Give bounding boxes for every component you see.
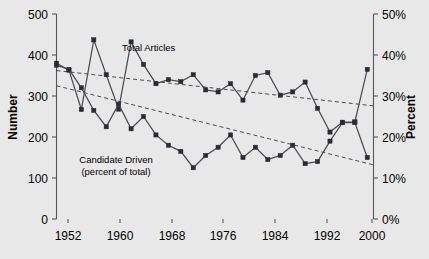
data-point bbox=[54, 63, 58, 67]
x-tick-label-1976: 1976 bbox=[210, 229, 237, 243]
y-tick-label-300: 300 bbox=[28, 90, 48, 104]
data-point bbox=[241, 98, 245, 102]
x-tick-label-1952: 1952 bbox=[55, 229, 82, 243]
x-tick-label-1992: 1992 bbox=[314, 229, 341, 243]
data-point bbox=[315, 106, 319, 110]
data-point bbox=[291, 143, 295, 147]
data-point bbox=[353, 121, 357, 125]
data-point bbox=[166, 143, 170, 147]
dual-axis-line-chart: 500 400 300 200 100 0 50% 40% 30% 20% 10… bbox=[0, 0, 429, 259]
data-point bbox=[253, 73, 257, 77]
series-annotation-candidate-driven-line2: (percent of total) bbox=[81, 166, 150, 177]
y2-tick-label-40: 40% bbox=[382, 49, 406, 63]
x-tick-label-1960: 1960 bbox=[107, 229, 134, 243]
data-point bbox=[303, 80, 307, 84]
y2-axis-title: Percent bbox=[404, 95, 418, 139]
data-point bbox=[154, 133, 158, 137]
data-point bbox=[92, 108, 96, 112]
data-point bbox=[179, 80, 183, 84]
data-point bbox=[241, 155, 245, 159]
x-tick-label-2000: 2000 bbox=[359, 229, 386, 243]
data-point bbox=[340, 121, 344, 125]
y-tick-label-500: 500 bbox=[28, 8, 48, 22]
data-point bbox=[92, 38, 96, 42]
data-point bbox=[328, 130, 332, 134]
x-tick-label-1984: 1984 bbox=[262, 229, 289, 243]
data-point bbox=[204, 88, 208, 92]
y2-tick-label-0: 0% bbox=[382, 213, 400, 227]
data-point bbox=[228, 133, 232, 137]
data-point bbox=[141, 62, 145, 66]
data-point bbox=[104, 125, 108, 129]
data-point bbox=[253, 145, 257, 149]
series-annotation-candidate-driven-line1: Candidate Driven bbox=[79, 154, 152, 165]
data-point bbox=[228, 82, 232, 86]
x-tick-label-1968: 1968 bbox=[159, 229, 186, 243]
y2-tick-label-10: 10% bbox=[382, 172, 406, 186]
data-point bbox=[315, 160, 319, 164]
data-point bbox=[154, 82, 158, 86]
y2-tick-label-50: 50% bbox=[382, 8, 406, 22]
data-point bbox=[216, 145, 220, 149]
y-tick-label-0: 0 bbox=[41, 213, 48, 227]
data-point bbox=[129, 127, 133, 131]
y-tick-label-400: 400 bbox=[28, 49, 48, 63]
y-tick-label-100: 100 bbox=[28, 172, 48, 186]
data-point bbox=[291, 90, 295, 94]
y2-tick-label-30: 30% bbox=[382, 90, 406, 104]
series-annotation-total-articles: Total Articles bbox=[122, 42, 176, 53]
chart-background bbox=[0, 0, 429, 259]
data-point bbox=[179, 149, 183, 153]
data-point bbox=[117, 102, 121, 106]
data-point bbox=[278, 93, 282, 97]
data-point bbox=[303, 162, 307, 166]
data-point bbox=[365, 67, 369, 71]
data-point bbox=[266, 157, 270, 161]
data-point bbox=[204, 153, 208, 157]
data-point bbox=[166, 78, 170, 82]
data-point bbox=[79, 107, 83, 111]
data-point bbox=[365, 155, 369, 159]
data-point bbox=[328, 139, 332, 143]
data-point bbox=[104, 73, 108, 77]
data-point bbox=[79, 86, 83, 90]
y-tick-label-200: 200 bbox=[28, 131, 48, 145]
data-point bbox=[67, 67, 71, 71]
data-point bbox=[141, 114, 145, 118]
data-point bbox=[278, 153, 282, 157]
y2-tick-label-20: 20% bbox=[382, 131, 406, 145]
y-axis-title: Number bbox=[6, 94, 20, 140]
data-point bbox=[191, 166, 195, 170]
data-point bbox=[191, 73, 195, 77]
data-point bbox=[266, 71, 270, 75]
data-point bbox=[216, 90, 220, 94]
